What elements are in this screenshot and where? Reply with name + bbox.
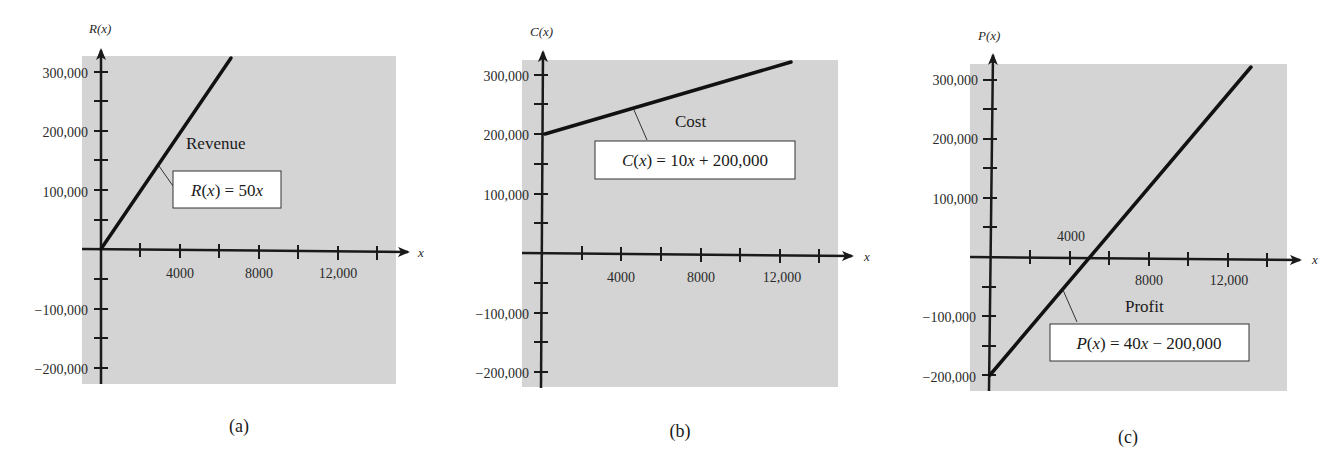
x-tick-label: 4000	[1057, 229, 1085, 244]
panel-caption-b: (b)	[670, 421, 691, 442]
equation-c: P(x) = 40x − 200,000	[1075, 334, 1221, 353]
y-tick-label: 300,000	[484, 69, 530, 84]
x-axis-name-c: x	[1311, 252, 1318, 267]
y-tick-label: −200,000	[923, 370, 976, 385]
y-tick-label: 100,000	[933, 192, 979, 207]
panel-caption-a: (a)	[229, 416, 249, 437]
x-tick-label: 12,000	[763, 270, 802, 285]
x-tick-label: 12,000	[1210, 273, 1249, 288]
y-tick-label: 200,000	[484, 128, 530, 143]
y-axis-name-c: P(x)	[977, 28, 1000, 43]
x-tick-label: 8000	[1135, 273, 1163, 288]
x-axis-name-b: x	[863, 249, 870, 264]
y-tick-label: −100,000	[923, 310, 976, 325]
y-axis-name-a: R(x)	[88, 21, 111, 36]
x-tick-label: 12,000	[319, 266, 358, 281]
x-axis-name-a: x	[417, 245, 424, 260]
panel-caption-c: (c)	[1118, 427, 1138, 448]
series-label-revenue: Revenue	[186, 134, 245, 153]
series-label-profit: Profit	[1125, 297, 1164, 316]
y-tick-label: −100,000	[35, 303, 88, 318]
series-label-cost: Cost	[675, 112, 706, 131]
y-tick-label: 300,000	[933, 73, 979, 88]
x-tick-label: 4000	[166, 266, 194, 281]
y-tick-label: 100,000	[484, 188, 530, 203]
panel-a: R(x) x 300,000 200,000 100,000 −100,000 …	[35, 21, 424, 437]
x-tick-label: 8000	[687, 270, 715, 285]
y-tick-label: 200,000	[43, 125, 89, 140]
y-axis-name-b: C(x)	[530, 24, 553, 39]
panel-c: P(x) x 300,000 200,000 100,000 −100,000 …	[923, 28, 1318, 448]
y-tick-label: −200,000	[476, 366, 529, 381]
y-tick-label: −100,000	[476, 307, 529, 322]
y-tick-label: 200,000	[933, 132, 979, 147]
y-tick-label: 300,000	[43, 66, 89, 81]
plot-area-a	[82, 56, 396, 384]
figure-canvas: R(x) x 300,000 200,000 100,000 −100,000 …	[0, 0, 1338, 467]
y-tick-label: −200,000	[35, 362, 88, 377]
equation-b: C(x) = 10x + 200,000	[622, 151, 768, 170]
y-tick-label: 100,000	[43, 185, 89, 200]
plot-area-b	[522, 60, 838, 387]
x-tick-label: 4000	[607, 270, 635, 285]
x-tick-label: 8000	[245, 266, 273, 281]
panel-b: C(x) x 300,000 200,000 100,000 −100,000 …	[476, 24, 870, 442]
equation-a: R(x) = 50x	[190, 181, 263, 200]
